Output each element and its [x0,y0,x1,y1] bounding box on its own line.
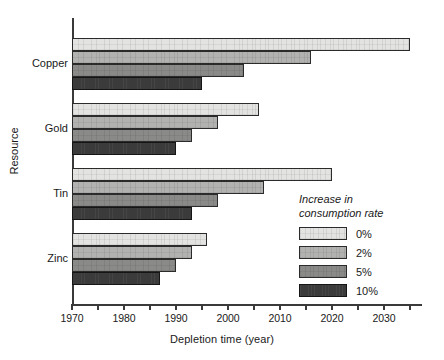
x-tick [357,304,358,310]
bar [72,142,176,155]
x-tick [253,304,254,310]
bar [72,77,202,90]
x-tick-label: 1980 [113,312,136,324]
legend-item: 2% [299,245,435,260]
legend-label: 10% [356,285,378,297]
legend-label: 0% [356,228,372,240]
bar [72,233,207,246]
x-tick [279,304,280,310]
y-axis-title: Resource [8,111,20,191]
x-tick-label: 1990 [165,312,188,324]
legend-swatch [299,265,347,278]
legend-item: 0% [299,226,435,241]
category-label: Copper [2,57,68,69]
x-tick-label: 2030 [373,312,396,324]
bar [72,51,311,64]
legend: Increase in consumption rate 0%2%5%10% [299,193,435,302]
category-label: Zinc [2,252,68,264]
bar [72,207,192,220]
legend-swatch [299,284,347,297]
bar-chart: 1970198019902000201020202030 CopperGoldT… [0,0,444,360]
legend-title: Increase in consumption rate [299,193,435,220]
legend-item: 10% [299,283,435,298]
x-tick [383,304,384,310]
legend-item: 5% [299,264,435,279]
legend-entries: 0%2%5%10% [299,226,435,298]
bar [72,116,218,129]
x-tick [331,304,332,310]
legend-swatch [299,227,347,240]
x-tick [123,304,124,310]
bar [72,194,218,207]
bar [72,259,176,272]
x-tick [71,304,72,310]
x-tick [175,304,176,310]
bar [72,103,259,116]
x-tick [227,304,228,310]
x-tick-label: 2000 [217,312,240,324]
bar [72,129,192,142]
bar [72,181,264,194]
x-tick [409,304,410,310]
legend-swatch [299,246,347,259]
x-tick [97,304,98,310]
bar [72,64,244,77]
x-tick-label: 2010 [269,312,292,324]
x-tick-label: 1970 [61,312,84,324]
legend-label: 5% [356,266,372,278]
x-tick [149,304,150,310]
x-tick-label: 2020 [321,312,344,324]
bar [72,246,192,259]
x-axis-title: Depletion time (year) [0,333,444,345]
bar [72,38,410,51]
bar [72,272,160,285]
bar [72,168,332,181]
legend-label: 2% [356,247,372,259]
x-tick [201,304,202,310]
x-tick [305,304,306,310]
